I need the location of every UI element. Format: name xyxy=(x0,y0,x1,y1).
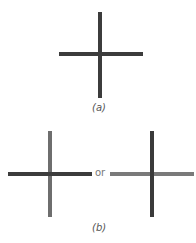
cross-b-right-vertical-bar xyxy=(150,131,154,217)
caption-b: (b) xyxy=(92,223,106,233)
cross-b-left-horizontal-bar xyxy=(8,172,92,176)
or-connector: or xyxy=(95,168,105,178)
caption-a: (a) xyxy=(92,103,106,113)
cross-a-vertical-bar xyxy=(98,12,102,98)
